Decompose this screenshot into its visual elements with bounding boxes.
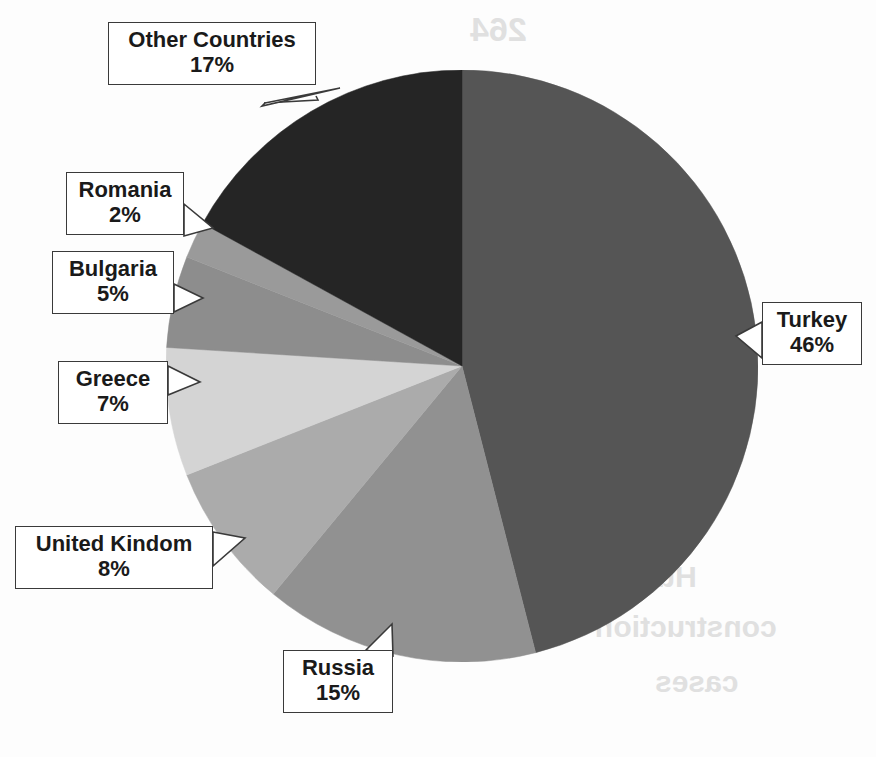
pie-chart [166, 70, 758, 662]
callout-other-countries-label: Other Countries [118, 28, 306, 53]
callout-russia-label: Russia [293, 656, 383, 681]
callout-other-countries-value: 17% [118, 53, 306, 78]
callout-united-kindom-label: United Kindom [25, 532, 203, 557]
callout-united-kindom-value: 8% [25, 557, 203, 582]
callout-russia[interactable]: Russia 15% [283, 650, 393, 713]
callout-united-kindom[interactable]: United Kindom 8% [15, 526, 213, 589]
callout-bulgaria-value: 5% [62, 282, 164, 307]
callout-other-countries[interactable]: Other Countries 17% [108, 22, 316, 85]
callout-bulgaria[interactable]: Bulgaria 5% [52, 251, 174, 314]
scan-artifact-bottom-right: cases [655, 665, 738, 699]
callout-turkey-value: 46% [772, 333, 852, 358]
callout-romania-label: Romania [76, 178, 174, 203]
callout-romania[interactable]: Romania 2% [66, 172, 184, 235]
pie-svg [166, 70, 758, 662]
callout-turkey[interactable]: Turkey 46% [762, 302, 862, 365]
scan-artifact-top: 264 [470, 10, 527, 49]
callout-greece-value: 7% [68, 392, 158, 417]
callout-turkey-label: Turkey [772, 308, 852, 333]
callout-greece-label: Greece [68, 367, 158, 392]
callout-greece[interactable]: Greece 7% [58, 361, 168, 424]
callout-bulgaria-label: Bulgaria [62, 257, 164, 282]
callout-russia-value: 15% [293, 681, 383, 706]
pie-slices [166, 70, 758, 662]
pie-chart-page: 264 Hull construction cases Other Countr… [0, 0, 876, 757]
callout-romania-value: 2% [76, 203, 174, 228]
